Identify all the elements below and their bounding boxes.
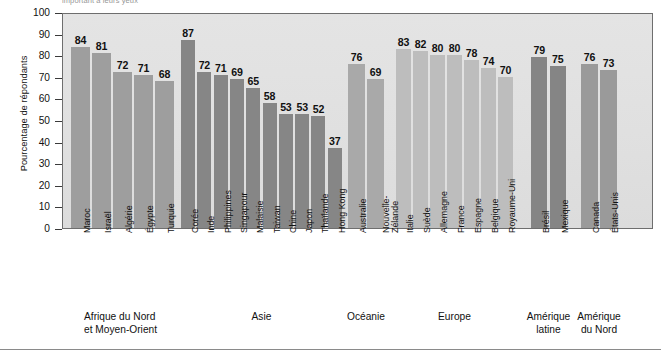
bar-value-label: 37 (329, 135, 340, 147)
x-axis-label: Italie (406, 214, 416, 233)
group-label-line: Asie (202, 310, 322, 323)
x-axis-label: Australie (359, 198, 369, 233)
bar-value-label: 82 (415, 38, 426, 50)
bar-value-label: 53 (296, 101, 307, 113)
y-tick-mark (55, 13, 62, 14)
bar-value-label: 72 (199, 59, 210, 71)
bar-value-label: 68 (159, 68, 170, 80)
group-label-line: du Nord (539, 323, 659, 336)
y-tick-label: 20 (39, 179, 50, 192)
x-axis-label: Belgique (491, 198, 501, 233)
x-axis-label: Singapour (240, 193, 250, 233)
x-axis-label: Espagne (474, 198, 484, 233)
x-axis-label: Brésil (542, 211, 552, 233)
x-axis-label: Inde (207, 216, 217, 233)
x-axis-label: Taiwan (273, 205, 283, 233)
bar: 72 (197, 72, 211, 228)
x-axis-label: Royaume-Uni (508, 179, 518, 233)
y-tick-mark (55, 56, 62, 57)
x-axis-label: Chine (289, 210, 299, 233)
x-axis-label: Suède (423, 207, 433, 233)
x-axis-label: Malaisie (256, 200, 266, 233)
y-tick-mark (55, 207, 62, 208)
bar-value-label: 70 (500, 64, 511, 76)
bar-value-label: 76 (584, 51, 595, 63)
group-label: Amériquedu Nord (539, 310, 659, 336)
bar-value-label: 53 (280, 101, 291, 113)
x-axis-label: Israël (104, 211, 114, 233)
x-axis-label: Japon (305, 209, 315, 233)
bar-value-label: 80 (449, 42, 460, 54)
chart-title: important à leurs yeux (62, 0, 138, 5)
bar-value-label: 76 (351, 51, 362, 63)
x-axis-label: Allemagne (440, 191, 450, 233)
y-tick-mark (55, 229, 62, 230)
bar: 81 (92, 53, 111, 228)
bar-value-label: 75 (552, 53, 563, 65)
bottom-divider (0, 349, 661, 350)
y-tick-label: 100 (33, 6, 50, 19)
y-tick-mark (55, 164, 62, 165)
bar-value-label: 78 (466, 47, 477, 59)
bar-value-label: 80 (432, 42, 443, 54)
bar-value-label: 71 (138, 62, 149, 74)
group-label-line: Amérique (539, 310, 659, 323)
x-axis-label: Nouvelle-Zélande (382, 196, 401, 234)
bar: 79 (531, 57, 547, 228)
x-axis-label: Corée (191, 209, 201, 233)
y-tick-mark (55, 143, 62, 144)
group-label-line: et Moyen-Orient (84, 323, 204, 336)
bars-container: 8481727168877271696558535352377669838280… (63, 14, 652, 228)
y-tick-label: 40 (39, 136, 50, 149)
bar-value-label: 83 (398, 36, 409, 48)
bar-value-label: 84 (75, 34, 86, 46)
y-tick-mark (55, 78, 62, 79)
bar-value-label: 81 (96, 40, 107, 52)
y-tick-label: 0 (44, 222, 50, 235)
y-tick-mark (55, 99, 62, 100)
bar: 82 (413, 51, 428, 228)
x-axis-label: Turquie (167, 203, 177, 233)
x-axis-label: Égypte (146, 205, 156, 233)
y-tick-label: 60 (39, 92, 50, 105)
bar-value-label: 79 (533, 44, 544, 56)
bar-value-label: 74 (483, 55, 494, 67)
x-axis-label: Hong Kong (338, 189, 348, 233)
bar: 84 (71, 47, 90, 228)
y-tick-mark (55, 35, 62, 36)
y-tick-label: 50 (39, 114, 50, 127)
bar-value-label: 72 (117, 59, 128, 71)
x-axis-label: France (457, 205, 467, 233)
chart-page: important à leurs yeux Pourcentage de ré… (0, 0, 661, 351)
x-axis-label: Algérie (125, 205, 135, 233)
y-tick-label: 70 (39, 71, 50, 84)
bar-value-label: 87 (182, 27, 193, 39)
bar: 87 (181, 40, 195, 228)
x-axis-label: Mexique (561, 199, 571, 233)
plot-area: 8481727168877271696558535352377669838280… (62, 13, 653, 229)
y-tick-label: 80 (39, 49, 50, 62)
x-axis-label: Maroc (83, 208, 93, 233)
bar-value-label: 69 (370, 66, 381, 78)
bar-value-label: 69 (231, 66, 242, 78)
bar-value-label: 52 (313, 103, 324, 115)
y-tick-label: 10 (39, 200, 50, 213)
bar-value-label: 65 (248, 75, 259, 87)
x-axis-label: Thaïlande (321, 194, 331, 233)
y-tick-mark (55, 121, 62, 122)
bar-value-label: 73 (603, 57, 614, 69)
bar-value-label: 71 (215, 62, 226, 74)
x-axis-label: Philippines (224, 190, 234, 233)
x-axis-label: États-Unis (611, 192, 621, 233)
group-label-line: Afrique du Nord (84, 310, 204, 323)
y-tick-mark (55, 186, 62, 187)
x-axis-label: Canada (592, 202, 602, 233)
y-tick-label: 90 (39, 28, 50, 41)
group-label: Afrique du Nordet Moyen-Orient (84, 310, 204, 336)
y-tick-label: 30 (39, 157, 50, 170)
group-label: Asie (202, 310, 322, 323)
y-axis-ticks: 1009080706050403020100 (0, 13, 62, 229)
bar-value-label: 58 (264, 90, 275, 102)
